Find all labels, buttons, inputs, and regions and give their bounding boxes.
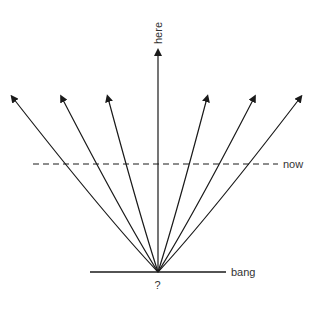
- here-label: here: [152, 22, 164, 44]
- diagram-svg: here now bang ?: [0, 0, 322, 330]
- origin-question-label: ?: [155, 279, 161, 291]
- diverging-arrow-left-1: [13, 98, 158, 272]
- diverging-arrow-right-5: [158, 98, 254, 272]
- diverging-arrow-right-4: [158, 98, 207, 272]
- diverging-arrow-left-2: [62, 98, 158, 272]
- now-label: now: [283, 158, 303, 170]
- diverging-arrow-right-6: [158, 98, 300, 272]
- diverging-arrow-left-3: [108, 98, 158, 272]
- bang-label: bang: [231, 266, 255, 278]
- diverging-arrows-group: [13, 98, 300, 272]
- diagram-canvas: here now bang ?: [0, 0, 322, 330]
